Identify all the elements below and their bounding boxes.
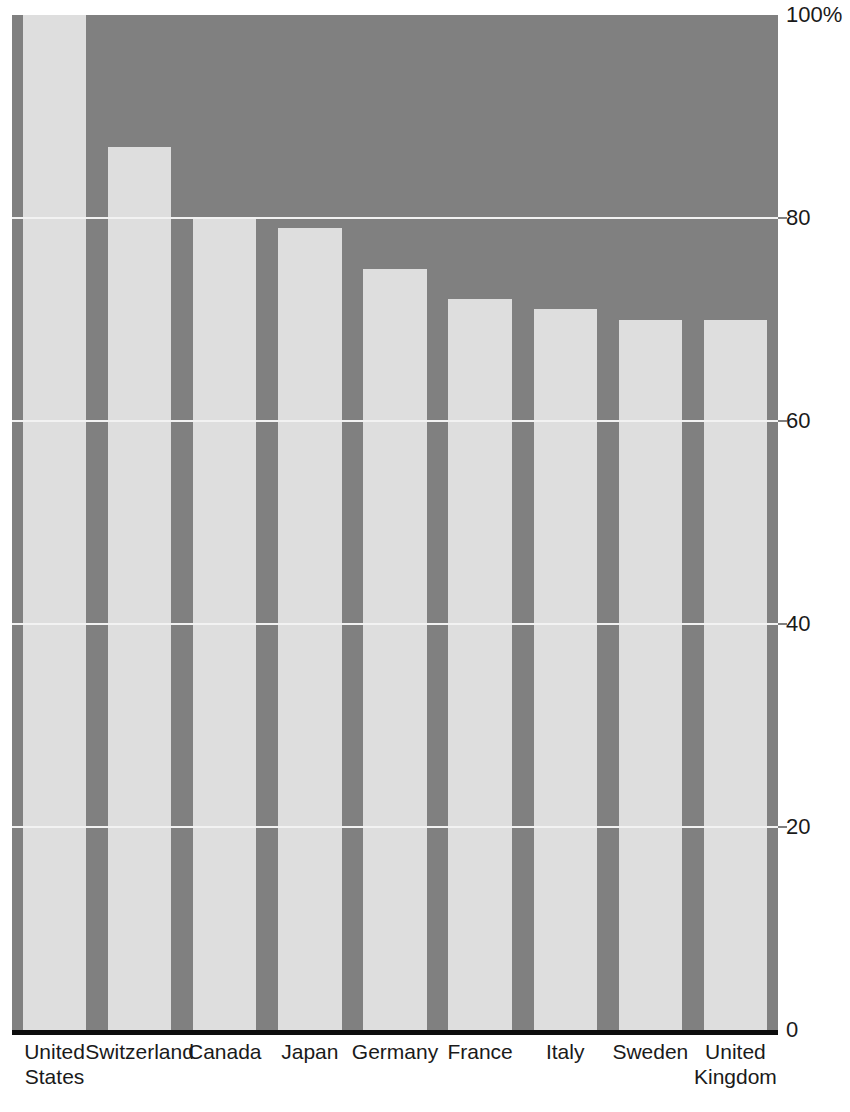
y-axis-tick-mark (778, 826, 787, 828)
y-axis-tick-mark (778, 420, 787, 422)
y-axis-tick-mark (778, 623, 787, 625)
y-axis-tick-label: 80 (786, 207, 810, 229)
y-axis-tick-label: 60 (786, 410, 810, 432)
bar[interactable] (619, 320, 682, 1031)
bar[interactable] (23, 15, 86, 1030)
x-axis-line (12, 1030, 778, 1035)
y-axis-tick-label: 40 (786, 613, 810, 635)
bar[interactable] (108, 147, 171, 1030)
plot-area (12, 15, 778, 1030)
x-axis-tick-label: UnitedKingdom (674, 1040, 797, 1089)
x-axis-tick-label-line: United (674, 1040, 797, 1065)
y-axis: 020406080100% (786, 0, 850, 1045)
bar[interactable] (448, 299, 511, 1030)
bar[interactable] (534, 309, 597, 1030)
gridline (12, 217, 778, 219)
gridline (12, 623, 778, 625)
y-axis-tick-mark (778, 217, 787, 219)
x-axis: UnitedStatesSwitzerlandCanadaJapanGerman… (12, 1040, 778, 1112)
gridline (12, 420, 778, 422)
y-axis-tick-label: 20 (786, 816, 810, 838)
x-axis-tick-label-line: Kingdom (674, 1065, 797, 1090)
y-axis-tick-label: 100% (786, 4, 842, 26)
bar-chart: 020406080100% UnitedStatesSwitzerlandCan… (0, 0, 850, 1112)
bar[interactable] (278, 228, 341, 1030)
bar[interactable] (704, 320, 767, 1031)
bar[interactable] (363, 269, 426, 1030)
y-axis-tick-label: 0 (786, 1019, 798, 1041)
gridline (12, 826, 778, 828)
x-axis-tick-label-line: States (0, 1065, 116, 1090)
